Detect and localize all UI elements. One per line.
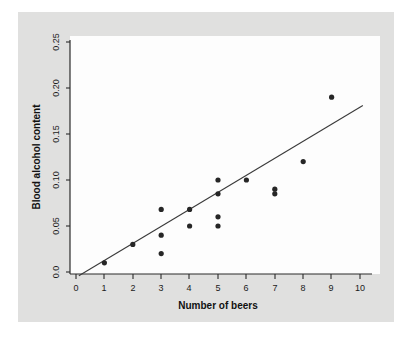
data-point — [215, 191, 220, 196]
scatter-chart: 0.25 0.20 0.15 0.10 0.05 0.0 Blood alcoh… — [0, 0, 412, 339]
y-axis-tick-labels: 0.25 0.20 0.15 0.10 0.05 0.0 — [51, 33, 61, 278]
data-point — [215, 177, 220, 182]
y-tick-label-3: 0.15 — [51, 125, 61, 143]
data-point — [301, 159, 306, 164]
y-tick-label-1: 0.05 — [51, 217, 61, 235]
data-point — [272, 191, 277, 196]
data-point — [244, 177, 249, 182]
y-tick-label-5: 0.25 — [51, 33, 61, 51]
data-point — [187, 223, 192, 228]
x-tick-label-3: 3 — [158, 283, 163, 293]
x-axis-ticks — [76, 274, 360, 279]
data-point — [159, 251, 164, 256]
figure-container: 0.25 0.20 0.15 0.10 0.05 0.0 Blood alcoh… — [0, 0, 412, 339]
data-point — [215, 223, 220, 228]
x-axis-group: 0 1 2 3 4 5 6 7 8 9 10 Number of beers — [70, 274, 372, 311]
x-axis-title: Number of beers — [178, 300, 258, 311]
x-axis-tick-labels: 0 1 2 3 4 5 6 7 8 9 10 — [73, 283, 365, 293]
x-tick-label-10: 10 — [355, 283, 365, 293]
data-point — [272, 187, 277, 192]
data-point — [187, 207, 192, 212]
y-axis-group: 0.25 0.20 0.15 0.10 0.05 0.0 Blood alcoh… — [31, 33, 70, 278]
x-tick-label-8: 8 — [300, 283, 305, 293]
data-points-layer — [102, 95, 334, 266]
data-point — [159, 233, 164, 238]
x-tick-label-6: 6 — [243, 283, 248, 293]
x-tick-label-9: 9 — [328, 283, 333, 293]
data-point — [159, 207, 164, 212]
data-point — [215, 214, 220, 219]
x-tick-label-2: 2 — [130, 283, 135, 293]
data-point — [130, 242, 135, 247]
y-tick-label-4: 0.20 — [51, 79, 61, 97]
data-point — [102, 260, 107, 265]
x-tick-label-5: 5 — [215, 283, 220, 293]
data-point — [329, 95, 334, 100]
regression-line — [79, 105, 363, 275]
x-tick-label-1: 1 — [101, 283, 106, 293]
x-tick-label-7: 7 — [272, 283, 277, 293]
x-tick-label-0: 0 — [73, 283, 78, 293]
y-tick-label-2: 0.10 — [51, 171, 61, 189]
x-tick-label-4: 4 — [186, 283, 191, 293]
y-tick-label-0: 0.0 — [51, 266, 61, 279]
y-axis-title: Blood alcohol content — [31, 104, 42, 210]
